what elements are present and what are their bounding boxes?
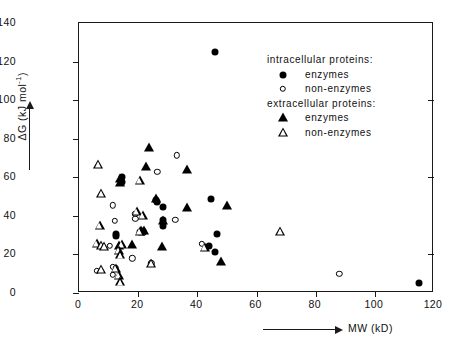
x-tick-label-0: 0: [75, 298, 81, 310]
data-point: [336, 271, 342, 277]
data-point: [213, 231, 220, 238]
x-tick-label-120: 120: [424, 298, 443, 310]
legend-item-intracellular-enzymes: enzymes: [267, 68, 376, 83]
legend-marker-circle-filled-icon: [280, 71, 287, 78]
y-tick-label-60: 60: [4, 170, 16, 182]
legend-item-intracellular-non-enzymes: non-enzymes: [267, 82, 376, 97]
y-tick-label-100: 100: [0, 93, 16, 105]
data-point: [96, 264, 106, 273]
data-point: [212, 248, 219, 255]
data-point: [141, 161, 151, 170]
y-tick-label-80: 80: [4, 132, 16, 144]
y-tick-label-20: 20: [4, 247, 16, 259]
legend-item-extracellular-non-enzymes: non-enzymes: [267, 126, 376, 141]
x-axis-tick-80: [316, 291, 317, 297]
data-point: [144, 143, 154, 152]
x-axis-tick-40: [197, 291, 198, 297]
data-point: [115, 250, 125, 259]
x-tick-label-100: 100: [364, 298, 383, 310]
x-tick-label-60: 60: [249, 298, 261, 310]
y-axis-tick-0: [73, 293, 79, 294]
legend: intracellular proteins: enzymes non-enzy…: [267, 53, 376, 140]
data-point: [172, 217, 178, 223]
data-point: [212, 48, 219, 55]
legend-label-intracellular-non-enzymes: non-enzymes: [305, 83, 372, 94]
data-point: [173, 152, 179, 158]
legend-label-extracellular-enzymes: enzymes: [305, 112, 349, 123]
data-point: [129, 255, 135, 261]
y-axis-direction-arrow-icon: [29, 108, 30, 170]
data-point: [275, 227, 285, 236]
y-axis-title-text: ΔG (kJ mol: [16, 84, 28, 141]
data-point: [182, 164, 192, 173]
x-axis-direction-arrow-icon: [263, 329, 335, 330]
legend-heading-intracellular: intracellular proteins:: [267, 53, 376, 68]
data-point: [200, 242, 210, 251]
y-axis-title-close: ): [16, 72, 28, 76]
legend-marker-triangle-open-icon: [278, 127, 288, 136]
x-axis-tick-20: [138, 291, 139, 297]
legend-marker-circle-open-icon: [280, 86, 286, 92]
x-axis-tick-100: [375, 291, 376, 297]
data-point: [160, 204, 167, 211]
x-axis-title: MW (kD): [348, 322, 393, 334]
y-tick-label-140: 140: [0, 16, 16, 28]
data-point: [93, 159, 103, 168]
x-tick-label-80: 80: [308, 298, 320, 310]
data-point: [110, 202, 116, 208]
data-point: [95, 220, 105, 229]
data-point: [216, 257, 226, 266]
data-point: [154, 168, 160, 174]
y-tick-label-40: 40: [4, 209, 16, 221]
data-point: [222, 201, 232, 210]
legend-label-extracellular-non-enzymes: non-enzymes: [305, 127, 372, 138]
data-point: [151, 194, 161, 203]
x-tick-label-20: 20: [131, 298, 143, 310]
y-tick-label-0: 0: [10, 286, 16, 298]
y-tick-label-120: 120: [0, 55, 16, 67]
data-point: [96, 188, 106, 197]
data-point: [99, 241, 109, 250]
scatter-plot-figure: ΔG (kJ mol-1) MW (kD) 0 20 40 60 80 100 …: [0, 0, 457, 352]
data-points-layer: [79, 23, 432, 291]
data-point: [135, 176, 145, 185]
data-point: [182, 203, 192, 212]
data-point: [138, 210, 148, 219]
data-point: [146, 259, 156, 268]
data-point: [416, 280, 423, 287]
plot-area: intracellular proteins: enzymes non-enzy…: [78, 22, 433, 292]
data-point: [157, 241, 167, 250]
x-tick-label-40: 40: [190, 298, 202, 310]
data-point: [207, 195, 214, 202]
legend-heading-extracellular: extracellular proteins:: [267, 97, 376, 112]
x-axis-tick-60: [257, 291, 258, 297]
data-point: [127, 239, 137, 248]
data-point: [158, 215, 168, 224]
legend-label-intracellular-enzymes: enzymes: [305, 69, 349, 80]
data-point: [111, 217, 117, 223]
data-point: [115, 277, 125, 286]
legend-marker-triangle-filled-icon: [278, 113, 288, 122]
legend-item-extracellular-enzymes: enzymes: [267, 111, 376, 126]
y-axis-title-exponent: -1: [14, 76, 23, 84]
data-point: [135, 227, 145, 236]
data-point: [115, 178, 125, 187]
